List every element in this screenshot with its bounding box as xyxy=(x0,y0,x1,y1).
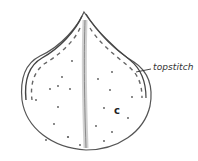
petal-illustration xyxy=(0,0,198,161)
topstitch-label: topstitch xyxy=(153,62,194,72)
sketch-canvas: topstitch c xyxy=(0,0,198,161)
topstitch-line-left xyxy=(32,28,81,100)
piece-label-c: c xyxy=(114,105,120,116)
